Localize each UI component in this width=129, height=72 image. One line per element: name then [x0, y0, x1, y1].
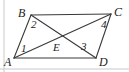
vertex-label-d: D	[99, 56, 108, 68]
vertex-label-a: A	[4, 56, 11, 68]
angle-label-4: 4	[101, 19, 107, 30]
angle-label-2: 2	[31, 19, 37, 30]
side-bc-line	[31, 14, 111, 15]
angle-label-3: 3	[81, 41, 87, 52]
vertex-label-b: B	[18, 7, 25, 19]
point-label-e: E	[53, 42, 60, 53]
geometry-figure: A B C D E 1 2 3 4	[0, 0, 129, 72]
angle-label-1: 1	[21, 43, 27, 54]
vertex-label-c: C	[114, 6, 122, 18]
